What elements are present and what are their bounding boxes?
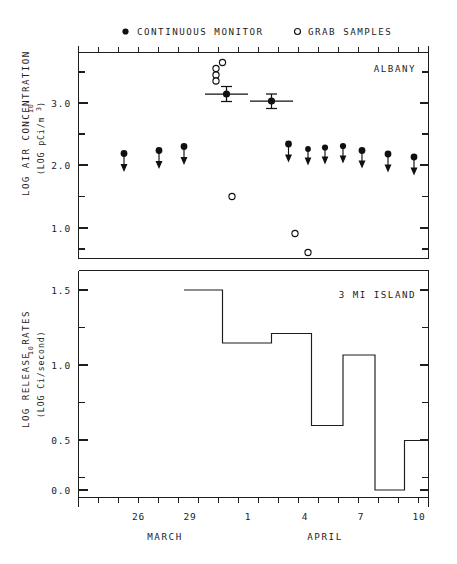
x-tick-label-7: 7 [358, 511, 365, 522]
y-tick-label-bottom-1p5: 1.5 [51, 285, 71, 296]
top-panel-y-axis-title: LOG AIR CONCENTRATION 10 (LOG pCi/m 3 ) [20, 50, 46, 196]
x-tick-label-1: 1 [245, 511, 252, 522]
y-tick-label-top-3: 3.0 [51, 98, 71, 109]
open-circle-icon [292, 230, 298, 236]
down-arrow-icon [181, 158, 186, 164]
bottom-panel-y-ticks-right [420, 290, 429, 490]
down-arrow-icon [121, 165, 126, 171]
top-panel-y-tick-labels: 3.0 2.0 1.0 [51, 98, 71, 234]
x-tick-label-4: 4 [302, 511, 309, 522]
open-circle-icon [295, 29, 301, 35]
top-panel-site-label: ALBANY [374, 63, 416, 74]
release-rate-step-trace [184, 290, 429, 490]
data-point-upper-limit [181, 143, 188, 163]
y-axis-title-top-units: (LOG pCi/m [36, 117, 46, 175]
legend: CONTINUOUS MONITOR GRAB SAMPLES [122, 26, 392, 37]
data-point-upper-limit [340, 143, 346, 162]
top-panel-y-ticks-right [420, 72, 429, 249]
series-grab-samples [213, 59, 311, 255]
bottom-panel-y-axis-title: LOG RELEASE RATES 10 (LOG Ci/second) [20, 310, 46, 428]
filled-circle-icon [268, 97, 275, 104]
x-tick-label-29: 29 [183, 511, 196, 522]
open-circle-icon [213, 65, 219, 71]
x-axis-month-labels: MARCH APRIL [147, 531, 343, 542]
down-arrow-icon [411, 168, 416, 174]
x-axis-tick-labels: 26 29 1 4 7 10 [132, 511, 426, 522]
open-circle-icon [219, 59, 225, 65]
down-arrow-icon [385, 165, 390, 171]
legend-label-continuous-monitor: CONTINUOUS MONITOR [137, 26, 264, 37]
y-axis-title-top-subscript: 10 [27, 103, 35, 113]
data-point-upper-limit [285, 141, 292, 161]
y-tick-label-bottom-0p0: 0.0 [51, 485, 71, 496]
y-axis-title-bottom-units: (LOG Ci/second) [36, 331, 46, 418]
y-tick-label-bottom-0p5: 0.5 [51, 435, 71, 446]
top-panel-y-ticks-left [79, 72, 88, 249]
data-point-upper-limit [305, 146, 311, 164]
chart-svg: CONTINUOUS MONITOR GRAB SAMPLES [0, 0, 457, 564]
series-continuous-monitor [121, 87, 418, 175]
bottom-panel-site-label: 3 MI ISLAND [339, 289, 416, 300]
data-point-upper-limit [359, 147, 366, 167]
down-arrow-icon [341, 156, 346, 162]
y-axis-title-bottom-main: LOG RELEASE RATES [20, 310, 31, 428]
legend-label-grab-samples: GRAB SAMPLES [308, 26, 392, 37]
open-circle-icon [213, 78, 219, 84]
bottom-panel-frame [79, 271, 429, 498]
data-point-upper-limit [322, 144, 328, 163]
open-circle-icon [305, 249, 311, 255]
top-panel-frame [79, 53, 429, 259]
y-axis-title-top-units-close: ) [36, 101, 46, 107]
y-tick-label-top-1: 1.0 [51, 223, 71, 234]
month-label-april: APRIL [307, 531, 343, 542]
y-tick-label-bottom-1p0: 1.0 [51, 360, 71, 371]
filled-circle-icon [122, 28, 128, 34]
data-point-with-errorbar [205, 87, 248, 102]
down-arrow-icon [323, 157, 328, 163]
top-panel-x-ticks-upper [79, 46, 429, 53]
down-arrow-icon [286, 155, 291, 161]
x-axis-ticks [79, 498, 429, 507]
data-point-upper-limit [411, 154, 418, 174]
bottom-panel-y-tick-labels: 1.5 1.0 0.5 0.0 [51, 285, 71, 496]
data-point-upper-limit [121, 150, 128, 170]
data-point-with-errorbar [250, 94, 293, 109]
month-label-march: MARCH [147, 531, 183, 542]
y-axis-title-top-main: LOG AIR CONCENTRATION [20, 50, 31, 196]
y-axis-title-bottom-subscript: 10 [27, 345, 35, 355]
x-tick-label-26: 26 [132, 511, 145, 522]
down-arrow-icon [359, 161, 364, 167]
y-tick-label-top-2: 2.0 [51, 160, 71, 171]
data-point-upper-limit [156, 147, 163, 167]
open-circle-icon [213, 72, 219, 78]
figure-container: CONTINUOUS MONITOR GRAB SAMPLES [0, 0, 457, 564]
bottom-panel-y-ticks-left [79, 290, 88, 490]
down-arrow-icon [306, 158, 311, 164]
open-circle-icon [229, 193, 235, 199]
filled-circle-icon [223, 90, 230, 97]
down-arrow-icon [156, 162, 161, 168]
data-point-upper-limit [385, 151, 392, 171]
x-tick-label-10: 10 [412, 511, 425, 522]
